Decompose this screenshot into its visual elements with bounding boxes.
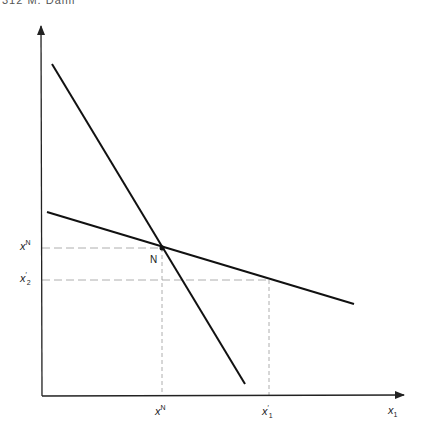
y-label-x2-prime: x′2 xyxy=(20,271,31,286)
guide-lines xyxy=(42,248,269,396)
x-axis xyxy=(42,395,404,396)
y-axis xyxy=(41,26,42,396)
x-axis-label: x1 xyxy=(388,404,397,418)
y-label-xn: xN xyxy=(20,239,31,252)
steep-reaction-line xyxy=(52,64,245,384)
x-label-x1-prime: x′1 xyxy=(262,404,273,419)
flat-reaction-line xyxy=(47,212,354,304)
x-label-xn: xN xyxy=(155,404,166,417)
point-label-n: N xyxy=(150,254,157,265)
reaction-diagram xyxy=(0,0,425,437)
equilibrium-point-n xyxy=(160,246,165,251)
